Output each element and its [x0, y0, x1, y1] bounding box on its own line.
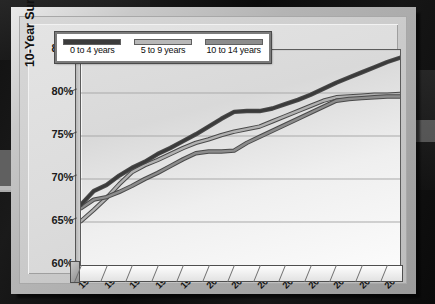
x-tick-mark	[253, 265, 261, 282]
legend-label-2: 10 to 14 years	[207, 45, 261, 55]
chart-legend: 0 to 4 years 5 to 9 years 10 to 14 years	[55, 32, 271, 63]
legend-item-1[interactable]: 5 to 9 years	[128, 34, 199, 61]
x-tick-mark	[176, 265, 184, 282]
line-chart: 10-Year Survival (%) 85%80%75%70%65%60% …	[25, 27, 417, 289]
series-lines	[81, 58, 400, 221]
x-tick-mark	[329, 265, 337, 282]
x-tick-mark	[278, 265, 286, 282]
plot-area	[80, 49, 401, 266]
x-tick-mark	[151, 265, 159, 282]
x-tick-mark	[380, 265, 388, 282]
x-tick-mark	[100, 265, 108, 282]
legend-label-1: 5 to 9 years	[141, 45, 186, 55]
legend-item-2[interactable]: 10 to 14 years	[198, 34, 269, 61]
x-tick-mark	[355, 265, 363, 282]
y-axis-title: 10-Year Survival (%)	[23, 0, 37, 67]
x-tick-mark	[227, 265, 235, 282]
legend-label-0: 0 to 4 years	[70, 45, 115, 55]
x-axis-band	[75, 265, 403, 282]
legend-item-0[interactable]: 0 to 4 years	[57, 34, 128, 61]
chart-plaque: 10-Year Survival (%) 85%80%75%70%65%60% …	[11, 7, 416, 294]
plot-svg	[81, 50, 400, 265]
x-tick-mark	[125, 265, 133, 282]
legend-swatch-0	[64, 40, 120, 44]
legend-swatch-2	[206, 40, 262, 44]
x-tick-mark	[202, 265, 210, 282]
x-tick-mark	[304, 265, 312, 282]
legend-swatch-1	[135, 40, 191, 44]
